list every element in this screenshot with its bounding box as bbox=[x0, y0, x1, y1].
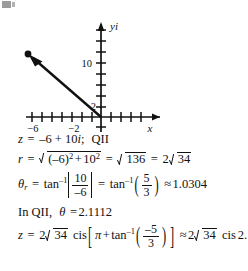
equals-sign-1: = bbox=[32, 177, 39, 191]
exponent-two-b: 2 bbox=[96, 151, 100, 161]
solution-steps: z = –6 + 10i; QII r = (–6)2+102 = 136 = … bbox=[18, 133, 248, 249]
x-tick-label-neg6: −6 bbox=[27, 123, 38, 132]
solution-line-z-definition: z = –6 + 10i; QII bbox=[18, 133, 248, 146]
denominator-3: 3 bbox=[142, 185, 152, 198]
neg-six: –6 bbox=[52, 152, 65, 166]
absolute-value-delimiters: 10–6 bbox=[68, 172, 92, 197]
y-tick-label-2: 2 bbox=[91, 101, 96, 112]
plus-sign: + bbox=[75, 152, 82, 166]
approx-sign: ≈ bbox=[180, 228, 187, 242]
value-136: 136 bbox=[125, 152, 146, 166]
radical-34-final: 34 bbox=[195, 228, 217, 242]
equals-sign-1: = bbox=[28, 152, 35, 166]
pi-symbol: π bbox=[95, 228, 101, 242]
equals-sign: = bbox=[70, 205, 77, 219]
theta-value: 2.1112 bbox=[78, 205, 111, 219]
inverse-exponent-2: –1 bbox=[125, 176, 134, 186]
numerator-10: 10 bbox=[72, 172, 88, 184]
plotted-point bbox=[25, 51, 32, 58]
z-symbol: z bbox=[18, 228, 23, 242]
x-axis-arrowhead bbox=[152, 114, 160, 121]
radical-34: 34 bbox=[46, 228, 68, 242]
plus-sign: + bbox=[103, 228, 110, 242]
solution-line-modulus: r = (–6)2+102 = 136 = 234 bbox=[18, 151, 248, 166]
bracket-group: π+tan–1–53 bbox=[87, 223, 175, 248]
semicolon: ; bbox=[81, 132, 84, 146]
exponent-two-a: 2 bbox=[69, 151, 73, 161]
x-tick-label-neg2: −2 bbox=[68, 123, 79, 132]
solution-line-quadrant-angle: In QII, θ =2.1112 bbox=[18, 206, 248, 219]
reference-angle-value: 1.0304 bbox=[173, 177, 207, 191]
z-symbol: z bbox=[18, 132, 23, 146]
quadrant-prefix: In QII, bbox=[18, 205, 52, 219]
cis-label-final: cis bbox=[222, 228, 236, 242]
coefficient-two-final: 2 bbox=[188, 228, 194, 242]
coefficient-two: 2 bbox=[162, 152, 168, 166]
equals-sign: = bbox=[28, 228, 35, 242]
arctangent-label-2: tan bbox=[110, 177, 125, 191]
r-symbol: r bbox=[18, 152, 23, 166]
equals-sign-2: = bbox=[98, 177, 105, 191]
inverse-exponent: –1 bbox=[59, 176, 68, 186]
quadrant-label: QII bbox=[92, 132, 109, 146]
ten: 10 bbox=[83, 152, 96, 166]
y-axis-label: yi bbox=[109, 20, 118, 32]
approx-sign: ≈ bbox=[164, 177, 171, 191]
fraction-10-over-neg6: 10–6 bbox=[72, 172, 88, 197]
solution-line-polar-form: z = 234 cisπ+tan–1–53 ≈234 cis2.112 bbox=[18, 223, 248, 248]
y-tick-label-10: 10 bbox=[82, 58, 93, 69]
equals-sign: = bbox=[28, 132, 35, 146]
value-34-final: 34 bbox=[202, 228, 217, 242]
numerator-neg5: –5 bbox=[143, 223, 159, 235]
radical-sum-of-squares: (–6)2+102 bbox=[40, 151, 101, 166]
worked-solution-figure: −6 −2 10 2 x yi z = –6 + 10i; QII r = (–… bbox=[0, 0, 248, 271]
complex-plane-graph: −6 −2 10 2 x yi bbox=[0, 6, 248, 132]
final-angle-value: 2.112 bbox=[238, 228, 248, 242]
denominator-3: 3 bbox=[143, 236, 159, 249]
parenthesis-group: 53 bbox=[134, 172, 160, 197]
arctangent-label: tan bbox=[111, 228, 126, 242]
fraction-neg5-over-3: –53 bbox=[143, 223, 159, 248]
denominator-neg6: –6 bbox=[72, 185, 88, 198]
x-axis-label: x bbox=[147, 122, 153, 132]
arctangent-label: tan bbox=[44, 177, 59, 191]
parenthesis-group: –53 bbox=[135, 223, 167, 248]
numerator-5: 5 bbox=[142, 172, 152, 184]
radical-136: 136 bbox=[118, 152, 146, 166]
theta-symbol: θ bbox=[59, 205, 65, 219]
z-value: –6 + 10 bbox=[39, 132, 77, 146]
value-34: 34 bbox=[53, 228, 68, 242]
equals-sign-3: = bbox=[151, 152, 158, 166]
value-34: 34 bbox=[177, 152, 192, 166]
solution-line-reference-angle: θr = tan–110–6 = tan–153 ≈1.0304 bbox=[18, 172, 248, 197]
radical-34: 34 bbox=[170, 152, 192, 166]
cis-label: cis bbox=[73, 228, 87, 242]
equals-sign-2: = bbox=[106, 152, 113, 166]
graph-svg: −6 −2 10 2 x yi bbox=[0, 6, 248, 132]
theta-subscript-r: r bbox=[24, 183, 27, 192]
coefficient-two: 2 bbox=[39, 228, 45, 242]
inverse-exponent: –1 bbox=[127, 227, 136, 237]
fraction-5-over-3: 53 bbox=[142, 172, 152, 197]
